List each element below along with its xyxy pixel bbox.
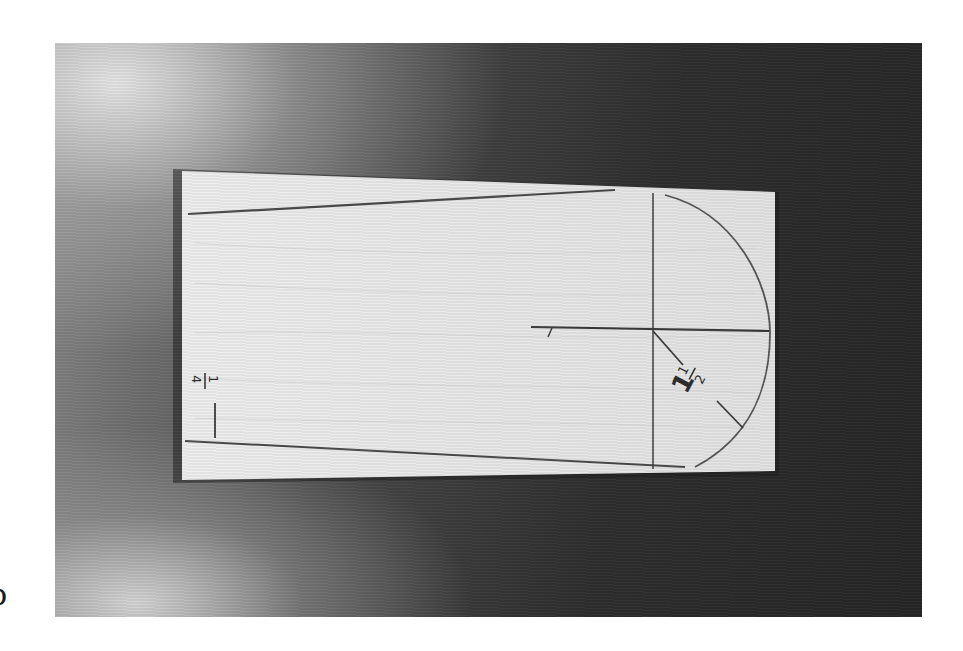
margin-label: b: [0, 580, 7, 610]
board-drawing: 1 1 2 1 4: [55, 43, 922, 617]
quarter-label-numerator: 1: [206, 375, 221, 383]
photograph: 1 1 2 1 4: [55, 43, 922, 617]
quarter-label-denominator: 4: [189, 375, 204, 383]
wood-board: [182, 171, 775, 480]
